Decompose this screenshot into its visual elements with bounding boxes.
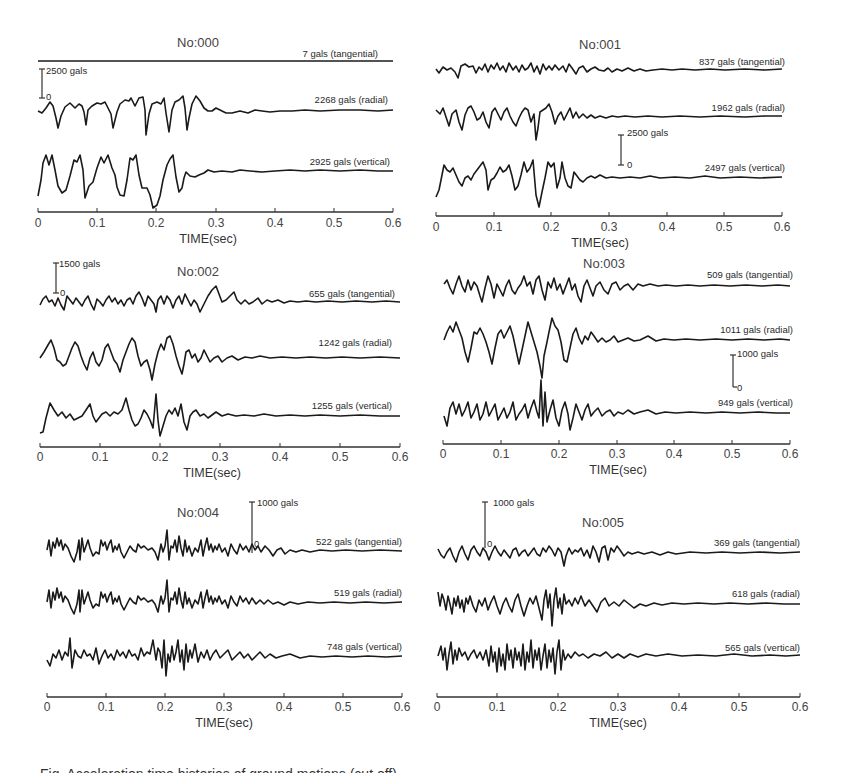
x-tick: 0.6 bbox=[792, 700, 809, 714]
scale-bar: 1500 gals 0 bbox=[53, 258, 100, 298]
x-axis: 0 0.1 0.2 0.3 0.4 0.5 0.6 TIME(sec) bbox=[35, 208, 402, 246]
scale-bar-label: 1000 gals bbox=[493, 497, 534, 508]
x-axis: 0 0.1 0.2 0.3 0.4 0.5 0.6 TIME(sec) bbox=[44, 693, 411, 730]
x-tick: 0 bbox=[433, 220, 440, 234]
trace-label-radial: 2268 gals (radial) bbox=[315, 94, 388, 105]
x-tick: 0.3 bbox=[609, 447, 626, 461]
x-tick: 0.6 bbox=[385, 216, 402, 230]
x-tick: 0.2 bbox=[551, 447, 568, 461]
x-tick: 0.5 bbox=[335, 700, 352, 714]
figure-caption-cutoff: Fig. Acceleration time histories of grou… bbox=[40, 760, 820, 773]
trace-tangential bbox=[438, 546, 800, 566]
x-tick: 0.4 bbox=[666, 447, 683, 461]
trace-label-vertical: 949 gals (vertical) bbox=[718, 397, 793, 408]
x-tick: 0.6 bbox=[394, 700, 411, 714]
x-tick: 0.5 bbox=[731, 700, 748, 714]
x-tick: 0 bbox=[440, 447, 447, 461]
scale-bar-label: 1000 gals bbox=[257, 497, 298, 508]
trace-label-tangential: 369 gals (tangential) bbox=[714, 537, 800, 548]
panel-no000: No:000 7 gals (tangential) 2500 gals 0 2… bbox=[35, 35, 402, 246]
x-tick: 0.6 bbox=[774, 220, 791, 234]
scale-bar-label: 2500 gals bbox=[627, 127, 668, 138]
trace-label-tangential: 837 gals (tangential) bbox=[699, 56, 785, 67]
x-tick: 0.1 bbox=[98, 700, 115, 714]
scale-bar: 1000 gals 0 bbox=[482, 497, 534, 549]
panel-no001: No:001 837 gals (tangential) 1962 gals (… bbox=[433, 37, 791, 250]
x-tick: 0 bbox=[434, 700, 441, 714]
x-tick: 0.3 bbox=[212, 450, 229, 464]
scale-bar: 2500 gals 0 bbox=[618, 127, 668, 170]
trace-label-radial: 1242 gals (radial) bbox=[319, 337, 392, 348]
panel-no002: No:002 1500 gals 0 655 gals (tangential)… bbox=[37, 258, 409, 480]
scale-bar-zero: 0 bbox=[487, 538, 492, 549]
trace-label-radial: 519 gals (radial) bbox=[334, 587, 402, 598]
x-tick: 0.3 bbox=[601, 220, 618, 234]
trace-label-tangential: 509 gals (tangential) bbox=[707, 269, 793, 280]
scale-bar: 1000 gals 0 bbox=[730, 348, 778, 393]
x-tick: 0.6 bbox=[782, 447, 799, 461]
x-tick: 0 bbox=[35, 216, 42, 230]
panel-title: No:000 bbox=[177, 35, 219, 50]
x-axis: 0 0.1 0.2 0.3 0.4 0.5 0.6 TIME(sec) bbox=[434, 693, 809, 730]
x-axis-title: TIME(sec) bbox=[179, 232, 237, 246]
x-tick: 0.1 bbox=[493, 447, 510, 461]
trace-label-tangential: 655 gals (tangential) bbox=[309, 288, 395, 299]
scale-bar: 1000 gals 0 bbox=[249, 497, 298, 553]
x-tick: 0.1 bbox=[89, 216, 106, 230]
x-axis-title: TIME(sec) bbox=[183, 466, 241, 480]
x-tick: 0.1 bbox=[489, 700, 506, 714]
x-tick: 0 bbox=[37, 450, 44, 464]
accelerogram-figure: No:000 7 gals (tangential) 2500 gals 0 2… bbox=[0, 0, 842, 773]
x-tick: 0.5 bbox=[724, 447, 741, 461]
x-axis-title: TIME(sec) bbox=[195, 716, 253, 730]
x-tick: 0.4 bbox=[659, 220, 676, 234]
panel-title: No:004 bbox=[177, 505, 219, 520]
x-tick: 0.2 bbox=[148, 216, 165, 230]
x-axis-title: TIME(sec) bbox=[571, 236, 629, 250]
trace-label-radial: 1962 gals (radial) bbox=[712, 102, 785, 113]
scale-bar-zero: 0 bbox=[627, 159, 632, 170]
x-tick: 0.4 bbox=[267, 216, 284, 230]
x-axis-title: TIME(sec) bbox=[589, 463, 647, 477]
panel-title: No:002 bbox=[177, 264, 219, 279]
x-tick: 0.2 bbox=[152, 450, 169, 464]
trace-label-tangential: 7 gals (tangential) bbox=[302, 48, 378, 59]
trace-label-radial: 618 gals (radial) bbox=[732, 588, 800, 599]
panel-no004: No:004 1000 gals 0 522 gals (tangential)… bbox=[44, 497, 411, 730]
x-axis: 0 0.1 0.2 0.3 0.4 0.5 0.6 TIME(sec) bbox=[433, 212, 791, 250]
x-tick: 0.5 bbox=[332, 450, 349, 464]
x-tick: 0.6 bbox=[392, 450, 409, 464]
x-tick: 0.1 bbox=[486, 220, 503, 234]
x-tick: 0.4 bbox=[272, 450, 289, 464]
trace-label-vertical: 748 gals (vertical) bbox=[327, 641, 402, 652]
trace-label-vertical: 565 gals (vertical) bbox=[725, 642, 800, 653]
trace-label-vertical: 2497 gals (vertical) bbox=[705, 162, 785, 173]
x-tick: 0.4 bbox=[276, 700, 293, 714]
panel-title: No:001 bbox=[579, 37, 621, 52]
trace-label-tangential: 522 gals (tangential) bbox=[316, 536, 402, 547]
panel-no003: No:003 509 gals (tangential) 1011 gals (… bbox=[440, 256, 799, 477]
x-tick: 0.3 bbox=[610, 700, 627, 714]
x-tick: 0 bbox=[44, 700, 51, 714]
scale-bar-zero: 0 bbox=[46, 91, 51, 102]
x-tick: 0.3 bbox=[208, 216, 225, 230]
scale-bar-zero: 0 bbox=[60, 287, 65, 298]
panel-title: No:003 bbox=[583, 256, 625, 271]
x-tick: 0.4 bbox=[671, 700, 688, 714]
x-axis: 0 0.1 0.2 0.3 0.4 0.5 0.6 TIME(sec) bbox=[440, 440, 799, 477]
x-axis: 0 0.1 0.2 0.3 0.4 0.5 0.6 TIME(sec) bbox=[37, 443, 409, 480]
scale-bar-label: 2500 gals bbox=[46, 65, 87, 76]
trace-label-vertical: 2925 gals (vertical) bbox=[310, 156, 390, 167]
trace-label-radial: 1011 gals (radial) bbox=[720, 324, 793, 335]
scale-bar-label: 1000 gals bbox=[737, 348, 778, 359]
panel-title: No:005 bbox=[582, 515, 624, 530]
x-tick: 0.2 bbox=[543, 220, 560, 234]
x-tick: 0.5 bbox=[326, 216, 343, 230]
scale-bar-label: 1500 gals bbox=[59, 258, 100, 269]
x-tick: 0.3 bbox=[216, 700, 233, 714]
x-tick: 0.1 bbox=[92, 450, 109, 464]
panel-no005: No:005 1000 gals 0 369 gals (tangential)… bbox=[434, 497, 809, 730]
trace-label-vertical: 1255 gals (vertical) bbox=[312, 400, 392, 411]
x-tick: 0.2 bbox=[157, 700, 174, 714]
scale-bar: 2500 gals 0 bbox=[39, 65, 87, 102]
